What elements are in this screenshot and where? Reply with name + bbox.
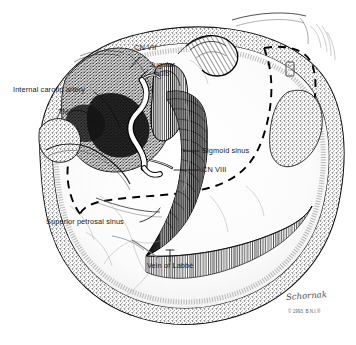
label-internal-carotid-artery: Internal carotid artery [13, 86, 85, 95]
label-superior-petrosal-sinus: Superior petrosal sinus [46, 218, 124, 227]
label-cn-vii: CN VII [134, 44, 156, 53]
label-sigmoid-sinus: Sigmoid sinus [202, 147, 249, 156]
label-cn-viii: CN VIII [202, 166, 227, 175]
label-vein-of-labbe: Vein of Labbé [147, 262, 194, 271]
copyright-notice: © 1993, B.N.I.® [288, 309, 320, 314]
label-tmj: TMJ [58, 108, 73, 117]
label-jugular-bulb-line2: bulb [155, 70, 169, 79]
